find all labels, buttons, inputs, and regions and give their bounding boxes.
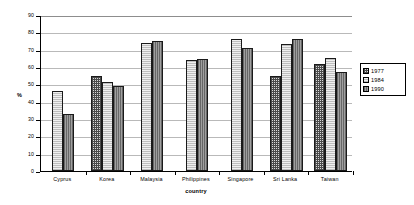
chart-legend: 197719841990 (360, 63, 406, 96)
x-tick-label: Philippines (174, 176, 219, 182)
bar-1984-philippines (186, 60, 197, 171)
bar-1984-taiwan (325, 58, 336, 171)
y-tick-label: 10 (0, 152, 34, 157)
legend-label: 1984 (371, 77, 384, 83)
x-tick-label: Malaysia (129, 176, 174, 182)
legend-label: 1990 (371, 86, 384, 92)
x-tick-label: Cyprus (40, 176, 85, 182)
y-axis-ticks: 9080706050403020100 (0, 0, 38, 205)
bar-group (41, 16, 86, 171)
bar-1977-korea (91, 76, 102, 171)
legend-swatch-icon (363, 86, 369, 92)
x-tick-mark (353, 171, 354, 175)
legend-item-1984[interactable]: 1984 (363, 75, 403, 84)
x-tick-mark (264, 171, 265, 175)
bar-group (86, 16, 131, 171)
y-tick-label: 0 (0, 169, 34, 174)
x-tick-mark (175, 171, 176, 175)
y-tick-label: 90 (0, 13, 34, 18)
bar-1984-cyprus (52, 91, 63, 171)
x-tick-mark (308, 171, 309, 175)
x-tick-label: Sri Lanka (263, 176, 308, 182)
x-tick-label: Singapore (218, 176, 263, 182)
bar-group (308, 16, 353, 171)
bar-1990-sri-lanka (292, 39, 303, 171)
y-tick-label: 50 (0, 82, 34, 87)
bar-group (264, 16, 309, 171)
bar-1984-sri-lanka (281, 44, 292, 171)
y-tick-label: 20 (0, 134, 34, 139)
y-tick-label: 70 (0, 48, 34, 53)
bar-group (175, 16, 220, 171)
legend-swatch-icon (363, 68, 369, 74)
bar-1990-philippines (197, 59, 208, 171)
bar-1990-cyprus (63, 114, 74, 171)
bar-1990-taiwan (336, 72, 347, 171)
x-tick-mark (86, 171, 87, 175)
x-tick-label: Taiwan (307, 176, 352, 182)
bar-1984-singapore (231, 39, 242, 171)
bar-1977-sri-lanka (270, 76, 281, 171)
bar-group (219, 16, 264, 171)
bar-1990-korea (113, 86, 124, 171)
x-tick-label: Korea (85, 176, 130, 182)
legend-label: 1977 (371, 68, 384, 74)
y-tick-label: 80 (0, 30, 34, 35)
bar-1977-taiwan (314, 64, 325, 171)
x-axis-title: country (0, 188, 392, 194)
bar-1984-malaysia (141, 43, 152, 171)
legend-swatch-icon (363, 77, 369, 83)
bar-1990-malaysia (152, 41, 163, 171)
y-tick-label: 30 (0, 117, 34, 122)
plot-area (40, 16, 352, 172)
y-tick-label: 60 (0, 65, 34, 70)
x-tick-mark (130, 171, 131, 175)
y-tick-label: 40 (0, 100, 34, 105)
bar-1990-singapore (242, 48, 253, 171)
legend-item-1977[interactable]: 1977 (363, 66, 403, 75)
y-tick-mark (36, 172, 40, 173)
bar-group (130, 16, 175, 171)
bar-1984-korea (102, 82, 113, 171)
legend-item-1990[interactable]: 1990 (363, 84, 403, 93)
bar-chart: % 9080706050403020100 CyprusKoreaMalaysi… (0, 0, 414, 205)
x-tick-mark (219, 171, 220, 175)
